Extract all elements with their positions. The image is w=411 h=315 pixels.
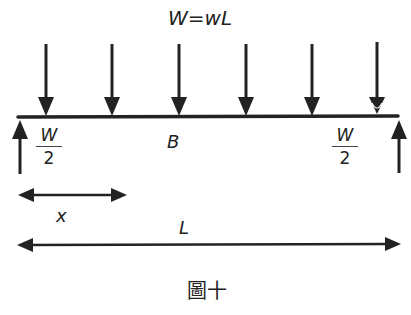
x-dimension-arrow <box>18 188 127 202</box>
load-arrow-icon <box>369 42 385 114</box>
left-reaction-label: W 2 <box>36 126 62 167</box>
load-arrow-icon <box>104 44 120 116</box>
fraction-bar <box>332 146 358 147</box>
load-arrow-icon <box>38 44 54 116</box>
right-reaction-arrow-icon <box>391 120 407 173</box>
right-reaction-numerator: W <box>332 126 358 144</box>
beam <box>18 116 398 117</box>
load-arrow-icon <box>304 44 320 116</box>
midpoint-label: B <box>167 133 179 151</box>
figure-caption: 圖十 <box>187 281 227 301</box>
load-equation-title: W=wL <box>168 8 232 28</box>
fraction-bar <box>36 146 62 147</box>
left-reaction-numerator: W <box>36 126 62 144</box>
distance-label: x <box>56 207 67 225</box>
distributed-load-arrows <box>38 42 385 116</box>
right-reaction-denominator: 2 <box>332 149 358 167</box>
span-label: L <box>179 219 189 237</box>
load-arrow-icon <box>171 44 187 116</box>
left-reaction-arrow-icon <box>12 120 28 174</box>
span-dimension-arrow <box>17 237 401 252</box>
load-arrow-icon <box>238 44 254 116</box>
right-reaction-label: W 2 <box>332 126 358 167</box>
left-reaction-denominator: 2 <box>36 149 62 167</box>
